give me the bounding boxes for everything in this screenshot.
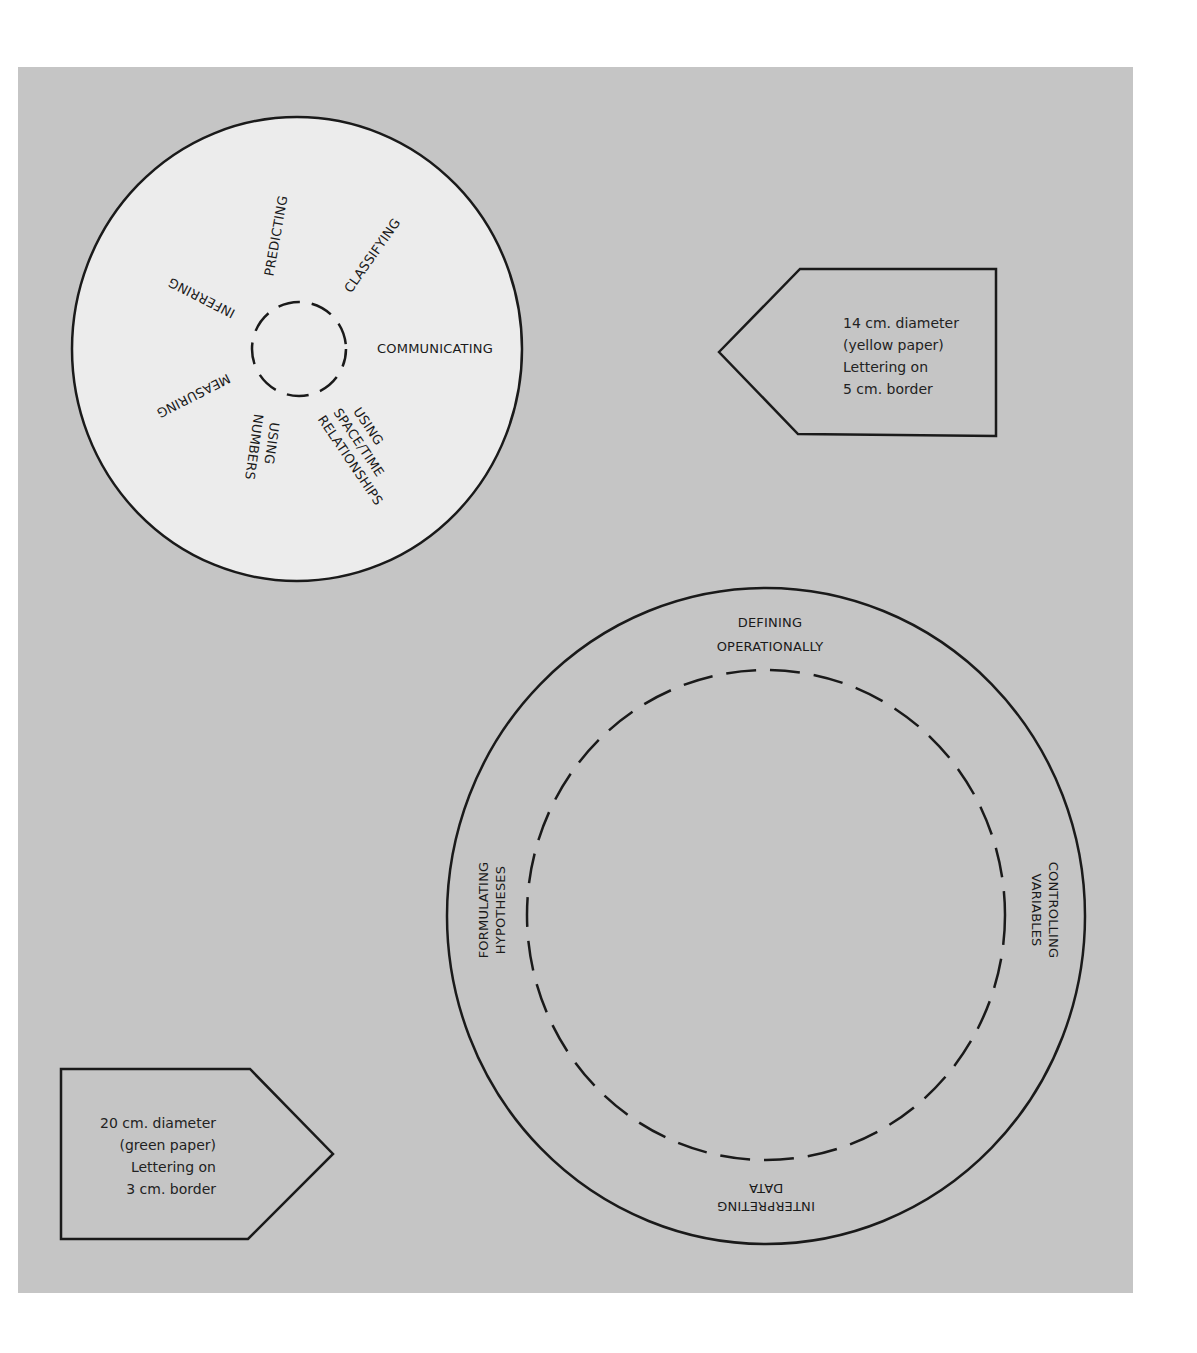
label-operationally: OPERATIONALLY [717, 639, 824, 654]
note-line: Lettering on [95, 1156, 216, 1178]
label-interpreting: INTERPRETING [717, 1199, 815, 1214]
note-line: 20 cm. diameter [95, 1112, 216, 1134]
label-defining: DEFINING [738, 615, 803, 630]
large-wheel-note-text: 20 cm. diameter (green paper) Lettering … [95, 1112, 216, 1200]
label-formulating: FORMULATING [476, 862, 491, 959]
large-wheel-outer-circle [447, 588, 1085, 1244]
label-variables: VARIABLES [1029, 873, 1044, 946]
label-interpreting-data: INTERPRETING DATA [717, 1181, 815, 1214]
label-hypotheses: HYPOTHESES [493, 866, 508, 954]
note-line: 5 cm. border [843, 378, 959, 400]
label-formulating-hypotheses: FORMULATING HYPOTHESES [476, 862, 508, 959]
note-line: 3 cm. border [95, 1178, 216, 1200]
note-line: 14 cm. diameter [843, 312, 959, 334]
label-controlling-variables: CONTROLLING VARIABLES [1029, 862, 1061, 959]
large-wheel-dashed-inner-circle [527, 670, 1005, 1160]
label-communicating: COMMUNICATING [377, 341, 493, 356]
small-wheel-note-text: 14 cm. diameter (yellow paper) Lettering… [843, 312, 959, 400]
label-data: DATA [749, 1181, 783, 1196]
large-wheel: DEFINING OPERATIONALLY CONTROLLING VARIA… [447, 588, 1085, 1244]
small-wheel: PREDICTING CLASSIFYING COMMUNICATING USI… [72, 117, 522, 581]
note-line: Lettering on [843, 356, 959, 378]
note-line: (green paper) [95, 1134, 216, 1156]
note-line: (yellow paper) [843, 334, 959, 356]
label-controlling: CONTROLLING [1046, 862, 1061, 959]
